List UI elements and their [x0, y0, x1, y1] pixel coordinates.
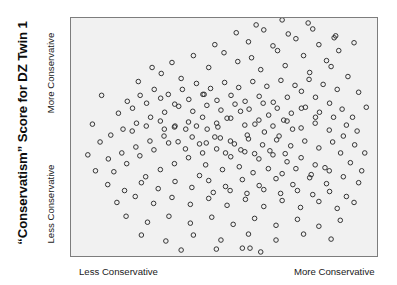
data-point — [99, 93, 104, 98]
data-point — [222, 50, 227, 55]
data-point — [148, 115, 153, 120]
data-point — [120, 151, 125, 156]
data-point — [236, 85, 241, 90]
data-point — [254, 23, 259, 28]
data-point — [280, 198, 285, 203]
data-point — [205, 127, 210, 132]
data-point — [162, 110, 167, 115]
data-point — [275, 48, 280, 53]
data-point — [340, 107, 345, 112]
data-point — [98, 140, 103, 145]
data-point — [251, 170, 256, 175]
data-point — [194, 124, 199, 129]
data-point — [324, 58, 329, 63]
data-point — [258, 250, 263, 255]
data-point — [186, 155, 191, 160]
data-point — [133, 194, 138, 199]
data-point — [335, 206, 340, 211]
data-point — [134, 121, 139, 126]
data-point — [246, 232, 251, 237]
data-point — [130, 129, 135, 134]
data-point — [190, 109, 195, 114]
data-point — [228, 154, 233, 159]
data-point — [240, 177, 245, 182]
data-point — [204, 141, 209, 146]
data-point — [191, 53, 196, 58]
data-point — [324, 181, 329, 186]
data-point — [352, 200, 357, 205]
data-point — [152, 87, 157, 92]
plot-area — [70, 17, 378, 257]
data-point — [262, 130, 267, 135]
data-point — [172, 102, 177, 107]
data-point — [124, 161, 129, 166]
data-point — [290, 127, 295, 132]
data-point — [206, 196, 211, 201]
data-point — [243, 197, 248, 202]
data-point — [338, 151, 343, 156]
data-point — [156, 186, 161, 191]
data-point — [121, 127, 126, 132]
data-point — [179, 76, 184, 81]
data-point — [187, 97, 192, 102]
data-point — [359, 169, 364, 174]
data-point — [125, 99, 130, 104]
data-point — [240, 246, 245, 251]
data-point — [313, 115, 318, 120]
data-point — [144, 101, 149, 106]
data-point — [159, 71, 164, 76]
data-point — [170, 195, 175, 200]
data-point — [139, 233, 144, 238]
data-point — [266, 166, 271, 171]
data-point — [205, 103, 210, 108]
data-point — [307, 70, 312, 75]
data-point — [261, 28, 266, 33]
data-point — [145, 220, 150, 225]
data-point — [291, 182, 296, 187]
data-point — [299, 155, 304, 160]
data-point — [299, 126, 304, 131]
data-point — [176, 139, 181, 144]
data-point — [108, 133, 113, 138]
data-point — [200, 151, 205, 156]
data-point — [158, 119, 163, 124]
data-point — [206, 178, 211, 183]
data-point — [122, 188, 127, 193]
data-point — [130, 106, 135, 111]
data-point — [190, 185, 195, 190]
data-point — [197, 173, 202, 178]
data-point — [220, 167, 225, 172]
data-point — [180, 87, 185, 92]
data-point — [150, 65, 155, 70]
data-point — [275, 106, 280, 111]
data-point — [329, 237, 334, 242]
x-axis-high-label: More Conservative — [294, 266, 375, 277]
data-point — [355, 129, 360, 134]
data-point — [115, 200, 120, 205]
data-point — [327, 101, 332, 106]
data-point — [288, 144, 293, 149]
data-point — [90, 122, 95, 127]
data-point — [313, 163, 318, 168]
data-point — [162, 134, 167, 139]
data-point — [298, 205, 303, 210]
data-point — [271, 44, 276, 49]
data-point — [239, 148, 244, 153]
data-point — [245, 191, 250, 196]
data-point — [203, 163, 208, 168]
data-point — [219, 238, 224, 243]
data-point — [352, 143, 357, 148]
data-point — [243, 123, 248, 128]
data-point — [271, 153, 276, 158]
data-point — [268, 149, 273, 154]
data-point — [249, 55, 254, 60]
data-point — [208, 86, 213, 91]
data-point — [218, 136, 223, 141]
data-point — [331, 115, 336, 120]
data-point — [294, 166, 299, 171]
data-point — [344, 123, 349, 128]
scatter-plot-figure: “Conservatism” Score for DZ Twin 1 More … — [0, 0, 397, 285]
data-point — [352, 40, 357, 45]
data-point — [136, 79, 141, 84]
data-point — [237, 164, 242, 169]
